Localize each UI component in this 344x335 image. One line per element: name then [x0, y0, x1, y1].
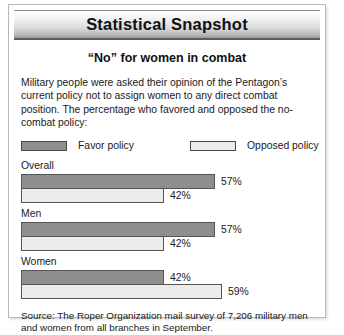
page-title: Statistical Snapshot: [86, 15, 248, 34]
bar-favor: [21, 270, 164, 285]
bar-value-favor: 57%: [221, 224, 242, 235]
legend-swatch-favor-icon: [21, 141, 67, 151]
bar-group-label: Men: [21, 208, 325, 220]
bar-favor: [21, 222, 215, 237]
chart-legend: Favor policy Opposed policy: [21, 139, 325, 153]
bar-row-favor: 57%: [21, 174, 325, 189]
bar-group-overall: Overall 57% 42%: [21, 160, 325, 203]
bar-row-favor: 42%: [21, 270, 325, 285]
bar-row-opposed: 42%: [21, 236, 325, 251]
bar-value-opposed: 42%: [170, 190, 191, 201]
bar-group-women: Women 42% 59%: [21, 256, 325, 299]
bar-opposed: [21, 188, 164, 203]
bar-value-opposed: 59%: [228, 286, 249, 297]
intro-paragraph: Military people were asked their opinion…: [21, 76, 313, 130]
bar-chart: Overall 57% 42% Men 57% 42% Women: [9, 160, 325, 299]
source-note: Source: The Roper Organization mail surv…: [21, 310, 313, 335]
legend-swatch-opposed-icon: [190, 141, 236, 151]
bar-group-men: Men 57% 42%: [21, 208, 325, 251]
bar-favor: [21, 174, 215, 189]
bar-opposed: [21, 284, 222, 299]
chart-subtitle: “No” for women in combat: [9, 51, 325, 65]
statistical-snapshot-card: Statistical Snapshot “No” for women in c…: [8, 4, 326, 318]
title-banner: Statistical Snapshot: [14, 10, 320, 40]
bar-value-favor: 42%: [170, 272, 191, 283]
bar-row-favor: 57%: [21, 222, 325, 237]
bar-opposed: [21, 236, 164, 251]
bar-value-favor: 57%: [221, 176, 242, 187]
legend-item-favor: Favor policy: [21, 140, 134, 151]
bar-value-opposed: 42%: [170, 238, 191, 249]
legend-item-opposed: Opposed policy: [190, 140, 319, 151]
bar-group-label: Overall: [21, 160, 325, 172]
legend-label-opposed: Opposed policy: [247, 140, 319, 151]
bar-row-opposed: 59%: [21, 284, 325, 299]
bar-group-label: Women: [21, 256, 325, 268]
bar-row-opposed: 42%: [21, 188, 325, 203]
legend-label-favor: Favor policy: [78, 140, 134, 151]
